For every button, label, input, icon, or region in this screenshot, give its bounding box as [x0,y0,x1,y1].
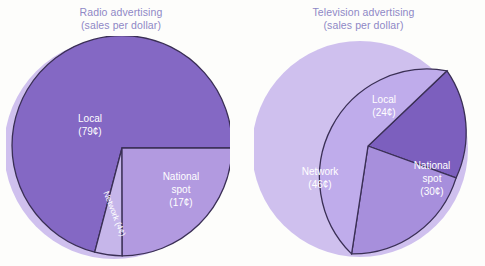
pie-chart-television: Local (24¢) National spot (30¢) Network … [254,36,478,260]
pie-label-radio-local: Local [78,113,102,124]
panel-title-radio: Radio advertising (sales per dollar) [0,6,242,31]
pie-chart-figure: Radio advertising (sales per dollar) Loc… [0,0,485,266]
panel-television-advertising: Television advertising (sales per dollar… [242,0,485,266]
pie-label-television-network: Network [302,166,340,177]
pie-label-radio-national-spot-line1: National [163,171,200,182]
pie-label-television-local-value: (24¢) [372,107,395,118]
pie-label-television-national-spot-line1: National [414,160,451,171]
pie-label-television-local: Local [372,94,396,105]
pie-label-television-national-spot-value: (30¢) [420,186,443,197]
panel-title-radio-line2: (sales per dollar) [0,19,242,32]
pie-label-radio-national-spot-line2: spot [172,184,191,195]
panel-title-television-line1: Television advertising [312,6,414,18]
panel-title-television-line2: (sales per dollar) [242,19,485,32]
pie-label-television-network-value: (46¢) [308,179,331,190]
panel-radio-advertising: Radio advertising (sales per dollar) Loc… [0,0,242,266]
pie-label-television-national-spot-line2: spot [423,173,442,184]
panel-title-radio-line1: Radio advertising [80,6,163,18]
pie-label-radio-national-spot-value: (17¢) [169,197,192,208]
pie-chart-radio: Local (79¢) National spot (17¢) Network … [6,36,230,260]
panel-title-television: Television advertising (sales per dollar… [242,6,485,31]
pie-label-radio-local-value: (79¢) [78,126,101,137]
